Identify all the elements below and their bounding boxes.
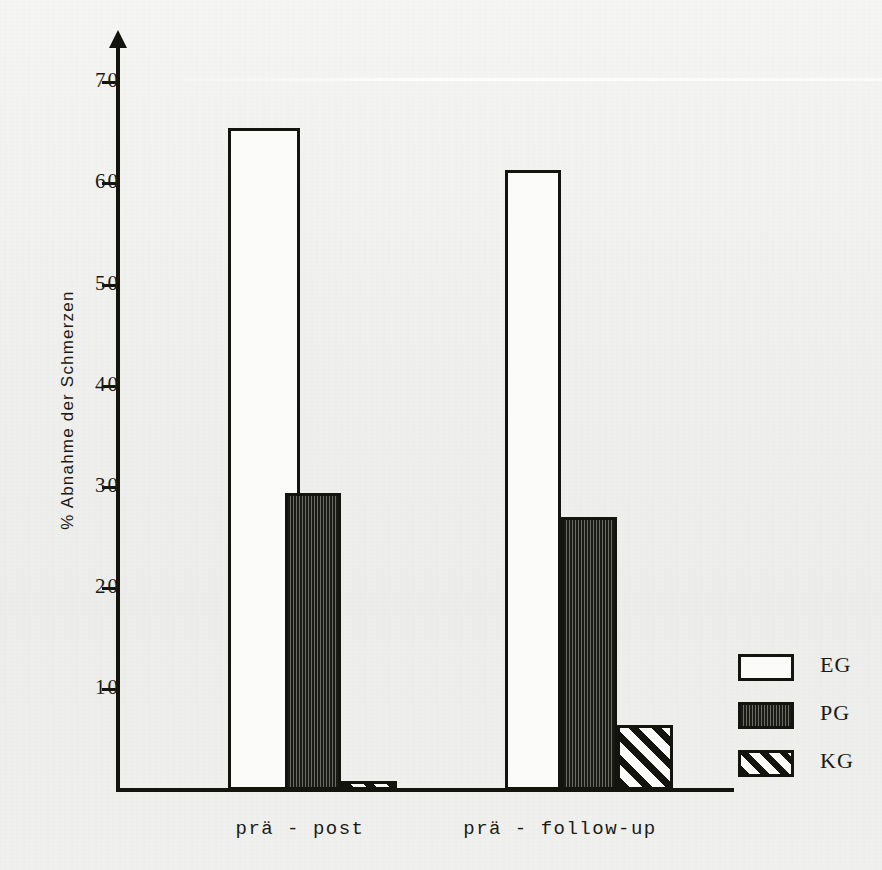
y-tick-label: 10	[78, 675, 120, 700]
x-axis-label-group2: prä - follow-up	[390, 818, 730, 840]
y-tick-label: 40	[78, 372, 120, 397]
legend-label-kg: KG	[820, 748, 854, 774]
y-axis-title: % Abnahme der Schmerzen	[58, 260, 78, 560]
legend-swatch-pg	[738, 702, 794, 729]
bar-pg-group1	[285, 493, 341, 790]
legend-swatch-kg	[738, 750, 794, 777]
y-tick-label: 20	[78, 574, 120, 599]
y-tick-label: 70	[78, 68, 120, 93]
plot-area: % Abnahme der Schmerzen 70605040302010 p…	[0, 0, 882, 870]
chart-page: % Abnahme der Schmerzen 70605040302010 p…	[0, 0, 882, 870]
bar-kg-group1	[341, 781, 397, 790]
bar-kg-group2	[617, 725, 673, 790]
legend-label-eg: EG	[820, 652, 851, 678]
y-axis-arrow-icon	[109, 30, 127, 48]
legend-swatch-eg	[738, 654, 794, 681]
y-tick-label: 30	[78, 473, 120, 498]
bar-pg-group2	[561, 517, 617, 790]
legend-label-pg: PG	[820, 700, 850, 726]
y-tick-label: 50	[78, 271, 120, 296]
bar-eg-group2	[505, 170, 561, 790]
y-tick-label: 60	[78, 169, 120, 194]
